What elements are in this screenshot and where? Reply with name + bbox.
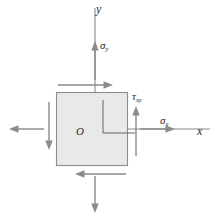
sigma-x-subscript: x <box>165 120 168 127</box>
sigma-y-subscript: y <box>105 45 108 52</box>
y-axis-label: y <box>96 3 101 15</box>
sigma-x-label: σx <box>160 115 168 127</box>
x-axis-label: x <box>197 125 202 137</box>
sigma-x-right-arrow <box>140 125 175 132</box>
sigma-y-top-arrow <box>91 41 98 80</box>
figure-canvas <box>0 0 215 221</box>
tau-left-arrow <box>45 102 52 150</box>
stress-element-figure: y x O σy σx τxy <box>0 0 215 221</box>
sigma-y-bottom-arrow <box>91 176 98 213</box>
tau-top-arrow <box>58 81 113 88</box>
sigma-x-left-arrow <box>9 125 44 132</box>
tau-bottom-arrow <box>75 170 126 177</box>
sigma-y-label: σy <box>100 40 108 52</box>
tau-subscript: xy <box>136 96 142 103</box>
tau-xy-label: τxy <box>132 91 142 103</box>
origin-label: O <box>76 126 84 137</box>
stress-element-square <box>57 93 128 166</box>
tau-right-arrow <box>132 106 139 156</box>
